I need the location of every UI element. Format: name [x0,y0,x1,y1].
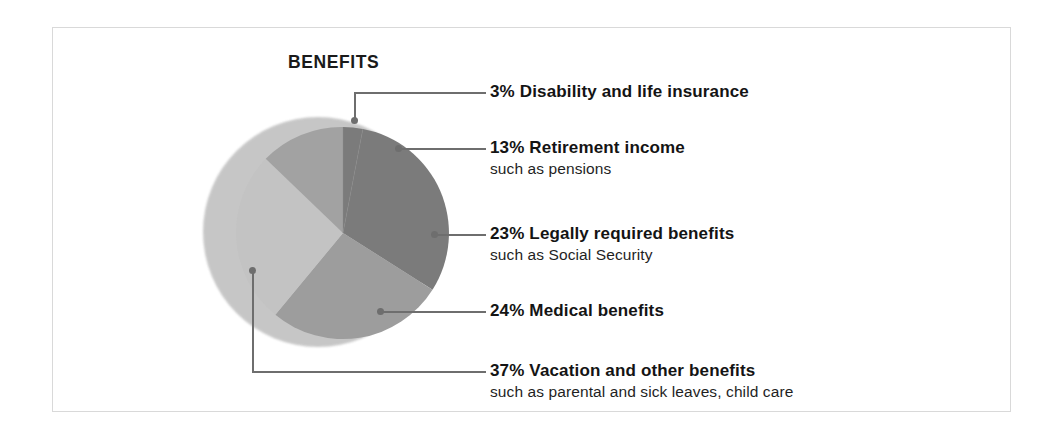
benefits-pie-chart-figure: BENEFITS [0,0,1063,442]
callout-line-retirement [399,148,486,150]
callout-label-retirement: 13% Retirement income such as pensions [490,138,685,178]
callout-label-vacation: 37% Vacation and other benefits such as … [490,361,793,401]
callout-line-vacation-horizontal [252,371,486,373]
callout-line-medical [381,311,486,313]
callout-title-legally-required: 23% Legally required benefits [490,224,734,244]
callout-label-disability: 3% Disability and life insurance [490,82,749,102]
callout-title-retirement: 13% Retirement income [490,138,685,158]
callout-line-disability-vertical [354,92,356,120]
callout-title-medical: 24% Medical benefits [490,301,664,321]
callout-subtitle-retirement: such as pensions [490,160,685,179]
callout-title-vacation: 37% Vacation and other benefits [490,361,793,381]
callout-label-legally-required: 23% Legally required benefits such as So… [490,224,734,264]
pie-chart [195,95,455,395]
callout-line-vacation-vertical [252,270,254,372]
callout-label-medical: 24% Medical benefits [490,301,664,321]
callout-line-legally-required [435,234,486,236]
pie-slices-svg [195,95,455,395]
callout-subtitle-legally-required: such as Social Security [490,246,734,265]
callout-line-disability-horizontal [354,92,486,94]
page-title: BENEFITS [288,52,379,73]
callout-title-disability: 3% Disability and life insurance [490,82,749,102]
callout-subtitle-vacation: such as parental and sick leaves, child … [490,383,793,402]
